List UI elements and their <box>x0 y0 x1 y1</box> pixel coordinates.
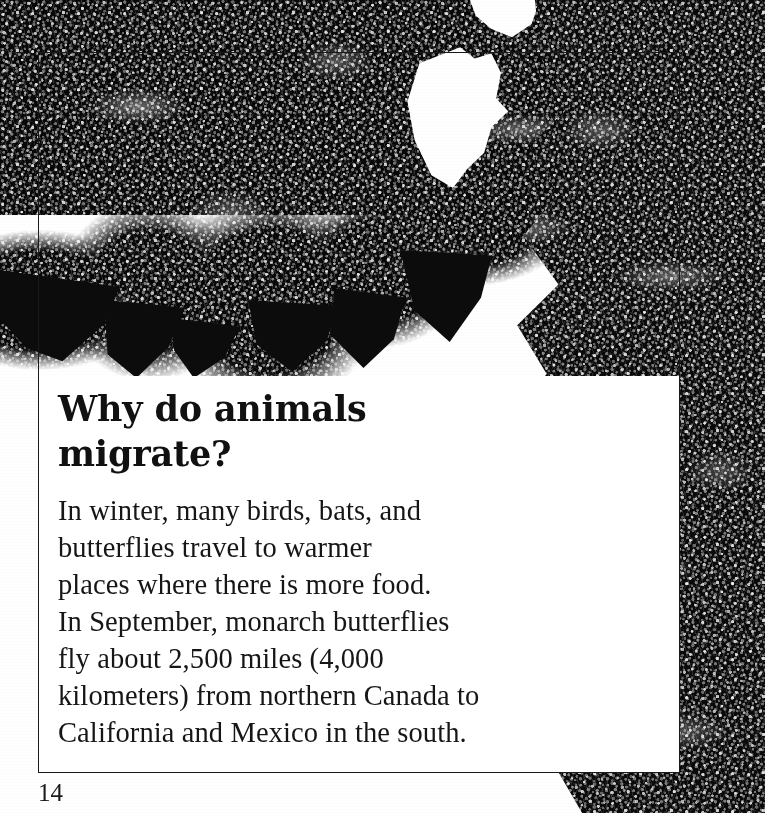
article-copy: Why do animalsmigrate? In winter, many b… <box>58 386 578 751</box>
page-title: Why do animalsmigrate? <box>58 386 578 476</box>
hanging-wing-5 <box>330 288 406 368</box>
hanging-wing-4 <box>248 300 336 372</box>
body-line-4: In September, monarch butterflies <box>58 603 578 640</box>
hanging-wing-6 <box>400 250 492 342</box>
book-page: Why do animalsmigrate? In winter, many b… <box>0 0 765 813</box>
body-line-6: kilometers) from northern Canada to <box>58 677 578 714</box>
page-number: 14 <box>38 778 63 808</box>
body-line-3: places where there is more food. <box>58 566 578 603</box>
photo-sky-gap-upper <box>470 0 540 60</box>
hanging-wing-2 <box>95 300 185 378</box>
page-title-line-2: migrate? <box>58 433 231 474</box>
wing-spot-texture-fine <box>0 0 765 380</box>
body-line-5: fly about 2,500 miles (4,000 <box>58 640 578 677</box>
hanging-wing-1 <box>0 270 120 365</box>
page-title-line-1: Why do animals <box>58 388 367 429</box>
body-line-7: California and Mexico in the south. <box>58 714 578 751</box>
body-line-1: In winter, many birds, bats, and <box>58 492 578 529</box>
wing-striation-texture <box>0 0 765 380</box>
body-line-2: butterflies travel to warmer <box>58 529 578 566</box>
hanging-wing-3 <box>170 318 240 378</box>
photo-top-cluster <box>0 0 765 380</box>
wing-spot-texture <box>0 0 765 380</box>
body-paragraph: In winter, many birds, bats, and butterf… <box>58 492 578 751</box>
photo-sky-gap <box>405 28 525 188</box>
wing-mass-texture <box>0 0 765 380</box>
